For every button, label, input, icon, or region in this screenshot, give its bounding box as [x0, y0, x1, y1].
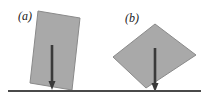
- figure-container: (a) (b): [0, 0, 211, 105]
- panel-label-b: (b): [125, 11, 139, 25]
- panel-label-a: (a): [18, 9, 32, 23]
- tilted-block-a: [30, 11, 80, 90]
- physics-figure: (a) (b): [0, 0, 211, 105]
